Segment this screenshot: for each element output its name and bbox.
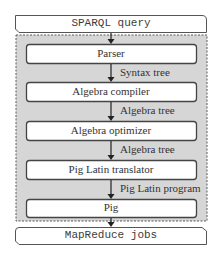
stage-box-parser	[27, 45, 197, 64]
stage-box-algebra-compiler	[27, 83, 197, 102]
stage-box-algebra-optimizer	[27, 122, 197, 141]
output-box-mapreduce-jobs	[16, 228, 207, 245]
stage-box-pig-latin-translator	[27, 161, 197, 180]
input-box-sparql-query	[16, 16, 207, 33]
stage-box-pig	[27, 200, 197, 218]
pipeline-diagram	[0, 0, 219, 260]
